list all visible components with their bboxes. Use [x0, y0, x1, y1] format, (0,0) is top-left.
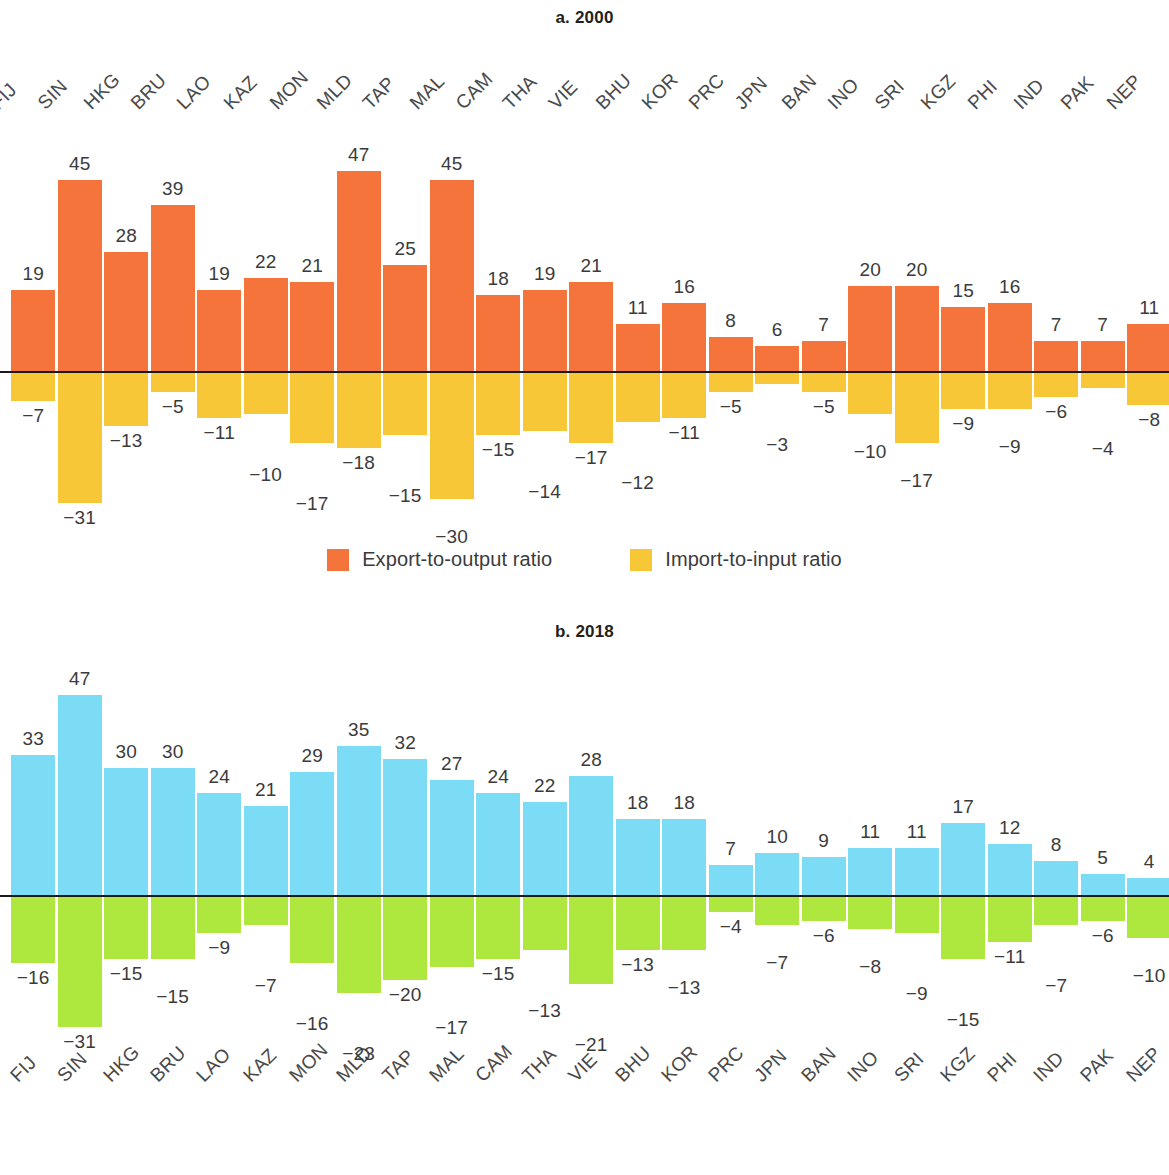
- bar-value-label: −30: [417, 526, 487, 548]
- bar-value-label: −3: [742, 434, 812, 456]
- bar-value-label: −9: [184, 937, 254, 959]
- bar: [11, 371, 55, 401]
- bar-value-label: 16: [975, 276, 1045, 298]
- bar-value-label: −13: [91, 430, 161, 452]
- bar: [569, 371, 613, 443]
- bar-value-label: 47: [324, 144, 394, 166]
- x-axis-tick-mal: MAL: [405, 70, 449, 114]
- bar-value-label: 20: [882, 259, 952, 281]
- bar-value-label: −21: [556, 1034, 626, 1056]
- x-axis-tick-nep: NEP: [1103, 70, 1147, 114]
- bar: [616, 819, 660, 896]
- x-axis-tick-lao: LAO: [173, 71, 216, 114]
- zero-baseline: [0, 371, 1169, 373]
- bar-value-label: 19: [0, 263, 68, 285]
- bar-value-label: −9: [975, 436, 1045, 458]
- x-axis-tick-bhu: BHU: [591, 69, 636, 114]
- x-axis-tick-cam: CAM: [452, 68, 498, 114]
- bar-value-label: 11: [603, 297, 673, 319]
- bar-value-label: −13: [603, 954, 673, 976]
- legend-item: Import-to-input ratio: [630, 548, 842, 571]
- bar: [802, 371, 846, 392]
- bar-value-label: 21: [277, 255, 347, 277]
- bar: [244, 806, 288, 895]
- bar-value-label: −8: [1114, 409, 1169, 431]
- bar: [523, 895, 567, 950]
- legend-swatch-icon: [630, 549, 652, 571]
- bar-value-label: −17: [277, 493, 347, 515]
- bar: [290, 371, 334, 443]
- bar: [1081, 895, 1125, 921]
- bar: [802, 895, 846, 921]
- bar: [1034, 371, 1078, 397]
- bar: [58, 895, 102, 1027]
- legend-swatch-icon: [327, 549, 349, 571]
- panel-b-title: b. 2018: [0, 622, 1169, 642]
- bar: [11, 895, 55, 963]
- bar: [476, 895, 520, 959]
- bar: [383, 759, 427, 895]
- bar: [197, 895, 241, 933]
- bar: [1034, 341, 1078, 371]
- bar: [290, 282, 334, 371]
- bar-value-label: −4: [696, 916, 766, 938]
- x-axis-labels-bottom: FIJSINHKGBRULAOKAZMONMLDTAPMALCAMTHAVIEB…: [0, 1065, 1169, 1165]
- bar-value-label: −17: [417, 1017, 487, 1039]
- bar-value-label: −13: [510, 1000, 580, 1022]
- x-axis-tick-ban: BAN: [777, 70, 821, 114]
- bar: [616, 895, 660, 950]
- bar-value-label: −17: [556, 447, 626, 469]
- x-axis-tick-mld: MLD: [312, 69, 357, 114]
- bar-value-label: 28: [91, 225, 161, 247]
- plot-area-2000: 1945283919222147254518192111168672020151…: [0, 140, 1169, 540]
- x-axis-tick-jpn: JPN: [731, 72, 773, 114]
- bar: [1081, 371, 1125, 388]
- bar-value-label: −7: [1021, 975, 1091, 997]
- bar: [476, 371, 520, 435]
- bar: [476, 295, 520, 372]
- bar-value-label: −11: [975, 946, 1045, 968]
- bar-value-label: −11: [649, 422, 719, 444]
- bar-value-label: −8: [835, 956, 905, 978]
- x-axis-tick-prc: PRC: [684, 69, 729, 114]
- legend-label: Export-to-output ratio: [362, 548, 552, 571]
- bar: [383, 265, 427, 371]
- bar: [197, 793, 241, 895]
- bar-value-label: −15: [928, 1009, 998, 1031]
- x-axis-tick-tap: TAP: [359, 73, 400, 114]
- bar: [941, 371, 985, 409]
- bar-value-label: −15: [91, 963, 161, 985]
- x-axis-tick-phi: PHI: [963, 75, 1002, 114]
- panel-a-title: a. 2000: [0, 8, 1169, 28]
- x-axis-tick-kaz: KAZ: [219, 72, 261, 114]
- bar: [988, 895, 1032, 942]
- x-axis-tick-ino: INO: [824, 74, 864, 114]
- x-axis-tick-mon: MON: [266, 66, 314, 114]
- bar-value-label: 21: [556, 255, 626, 277]
- bar-value-label: −7: [0, 405, 68, 427]
- bar: [941, 307, 985, 371]
- plot-area-2018: 3347303024212935322724222818187109111117…: [0, 650, 1169, 1070]
- bar-value-label: 22: [510, 775, 580, 797]
- panel-2018: b. 2018 33473030242129353227242228181871…: [0, 610, 1169, 1175]
- bar: [244, 895, 288, 925]
- x-axis-tick-pak: PAK: [1056, 72, 1098, 114]
- bar-value-label: 33: [0, 728, 68, 750]
- bar-value-label: 32: [370, 732, 440, 754]
- bar-value-label: 45: [45, 153, 115, 175]
- bar: [383, 895, 427, 980]
- bar-value-label: 47: [45, 668, 115, 690]
- bar: [104, 768, 148, 896]
- bar-value-label: −11: [184, 422, 254, 444]
- bar-value-label: −12: [603, 472, 673, 494]
- x-axis-tick-fij: FIJ: [0, 79, 21, 114]
- bar: [895, 895, 939, 933]
- bar-value-label: −7: [231, 975, 301, 997]
- bar-value-label: −14: [510, 481, 580, 503]
- bar: [476, 793, 520, 895]
- bar-value-label: −6: [789, 925, 859, 947]
- bar-value-label: 7: [789, 314, 859, 336]
- bar: [1081, 874, 1125, 895]
- bar-value-label: −23: [324, 1043, 394, 1065]
- x-axis-tick-kgz: KGZ: [917, 70, 961, 114]
